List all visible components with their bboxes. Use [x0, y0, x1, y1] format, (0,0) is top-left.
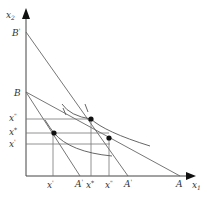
x-axis-arrow-icon [186, 172, 196, 180]
reference-lines [26, 119, 110, 176]
budget-lines [26, 32, 180, 176]
tick-A: A [175, 179, 183, 189]
tick-A-prime-1: A' [74, 178, 84, 189]
x-axis-label: x1 [192, 180, 201, 191]
budget-line-BA [26, 92, 180, 176]
tick-A-prime-2: A' [123, 178, 133, 189]
point-compensated [51, 130, 56, 135]
intercept-B: B [13, 88, 21, 98]
budget-diagram: x2 x1 B' B x" x* x' x' A' x* x" A' A [0, 0, 207, 201]
point-initial [88, 116, 93, 121]
tangency-points [51, 116, 111, 140]
axes [26, 16, 188, 176]
y-axis-arrow-icon [22, 8, 30, 19]
tick-x1-star: x* [86, 179, 94, 190]
point-new [106, 135, 111, 140]
indifference-curve-upper [62, 104, 150, 146]
y-axis-label: x2 [6, 10, 15, 21]
tick-x1-double-prime: x" [105, 179, 113, 190]
indifference-curves [45, 104, 150, 156]
tick-x1-prime: x' [47, 179, 54, 190]
tick-x2-star: x* [9, 126, 17, 137]
intercept-B-prime: B' [11, 27, 21, 38]
budget-line-B-prime-A-prime [26, 32, 128, 176]
tick-x2-double-prime: x" [9, 112, 17, 123]
tick-x2-prime: x' [9, 138, 16, 149]
